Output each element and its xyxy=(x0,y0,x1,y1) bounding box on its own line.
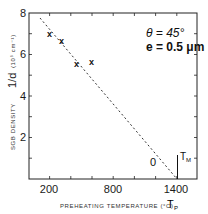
theta-annotation: θ = 45° xyxy=(146,26,185,40)
y-axis-label: SGB DENSITY 1/d (10⁵ cm⁻¹) xyxy=(6,34,18,150)
data-point: x xyxy=(74,59,79,69)
thickness-annotation: e = 0.5 μm xyxy=(146,40,204,54)
y-tick-label: 4 xyxy=(20,90,26,102)
x-tick-label: 1400 xyxy=(164,183,188,195)
chart: 200 800 1400 2 4 6 8 SGB DENSITY 1/d (10… xyxy=(0,0,208,214)
svg-text:(10⁵ cm⁻¹): (10⁵ cm⁻¹) xyxy=(10,34,16,68)
x-tick-label: 800 xyxy=(104,183,122,195)
data-points-x: x x x x xyxy=(47,29,94,69)
tp-subscript: P xyxy=(174,205,178,211)
y-tick-label: 6 xyxy=(20,48,26,60)
svg-text:SGB DENSITY: SGB DENSITY xyxy=(10,103,16,150)
data-point: x xyxy=(89,57,94,67)
tp-symbol: T xyxy=(167,198,174,210)
x-tick-label: 200 xyxy=(40,183,58,195)
tm-subscript: M xyxy=(186,157,191,163)
zero-marker: 0 xyxy=(150,156,156,168)
x-axis-label: PREHEATING TEMPERATURE (°C) xyxy=(60,203,174,209)
svg-text:1/d: 1/d xyxy=(6,73,18,88)
data-point: x xyxy=(59,36,64,46)
y-tick-label: 8 xyxy=(20,7,26,19)
y-tick-label: 2 xyxy=(20,131,26,143)
data-point: x xyxy=(47,29,52,39)
